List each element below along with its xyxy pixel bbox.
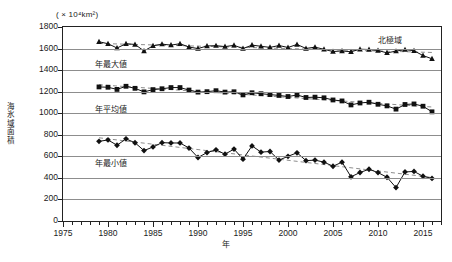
x-tick-minor bbox=[99, 222, 100, 225]
data-point bbox=[178, 85, 183, 90]
x-tick-minor bbox=[351, 222, 352, 225]
x-tick-label: 1990 bbox=[178, 228, 218, 238]
y-tick-label: 1600 bbox=[24, 43, 58, 53]
data-point bbox=[349, 103, 354, 108]
data-point bbox=[123, 41, 129, 46]
y-tick-label: 600 bbox=[24, 150, 58, 160]
x-tick-label: 1975 bbox=[43, 228, 83, 238]
x-tick-minor bbox=[180, 222, 181, 225]
data-point bbox=[403, 102, 408, 107]
data-point bbox=[249, 42, 255, 47]
y-axis-title-char: 積 bbox=[3, 137, 17, 146]
x-tick-minor bbox=[207, 222, 208, 225]
data-point bbox=[124, 84, 129, 89]
y-tick-label: 1400 bbox=[24, 64, 58, 74]
y-tick-label: 1000 bbox=[24, 107, 58, 117]
data-point bbox=[304, 95, 309, 100]
trend-line bbox=[99, 85, 432, 107]
x-tick-major bbox=[423, 222, 424, 227]
x-tick-minor bbox=[189, 222, 190, 225]
data-point bbox=[420, 53, 426, 58]
data-point bbox=[105, 137, 111, 143]
x-tick-minor bbox=[414, 222, 415, 225]
data-point bbox=[286, 94, 291, 99]
series-3 bbox=[96, 136, 435, 191]
y-tick-mark bbox=[58, 70, 62, 71]
y-tick-mark bbox=[58, 92, 62, 93]
data-point bbox=[411, 169, 417, 175]
x-tick-minor bbox=[81, 222, 82, 225]
x-tick-minor bbox=[315, 222, 316, 225]
y-gridline bbox=[63, 178, 441, 179]
x-tick-minor bbox=[369, 222, 370, 225]
data-point bbox=[96, 138, 102, 144]
x-tick-label: 2005 bbox=[313, 228, 353, 238]
data-point bbox=[177, 41, 183, 46]
plot-area bbox=[62, 26, 442, 222]
data-point bbox=[385, 103, 390, 108]
data-point bbox=[96, 39, 102, 44]
data-point bbox=[241, 93, 246, 98]
data-point bbox=[402, 169, 408, 175]
data-point bbox=[322, 95, 327, 100]
x-tick-minor bbox=[171, 222, 172, 225]
y-tick-label: 0 bbox=[24, 215, 58, 225]
y-tick-label: 400 bbox=[24, 172, 58, 182]
data-point bbox=[231, 42, 237, 47]
data-point bbox=[150, 144, 156, 150]
y-tick-mark bbox=[58, 135, 62, 136]
x-tick-major bbox=[333, 222, 334, 227]
data-point bbox=[358, 101, 363, 106]
x-tick-minor bbox=[144, 222, 145, 225]
x-tick-major bbox=[63, 222, 64, 227]
region-label: 北極域 bbox=[378, 34, 402, 45]
x-tick-major bbox=[243, 222, 244, 227]
series-label-2: 年平均値 bbox=[95, 103, 127, 114]
data-point bbox=[106, 85, 111, 90]
x-tick-minor bbox=[360, 222, 361, 225]
data-point bbox=[339, 159, 345, 165]
x-tick-minor bbox=[324, 222, 325, 225]
x-tick-minor bbox=[216, 222, 217, 225]
data-point bbox=[357, 170, 363, 176]
data-point bbox=[313, 95, 318, 100]
y-gridline bbox=[63, 199, 441, 200]
x-tick-minor bbox=[405, 222, 406, 225]
plot-svg bbox=[63, 27, 441, 221]
x-tick-minor bbox=[387, 222, 388, 225]
data-point bbox=[331, 98, 336, 103]
y-tick-mark bbox=[58, 221, 62, 222]
x-tick-minor bbox=[342, 222, 343, 225]
data-point bbox=[375, 170, 381, 176]
data-point bbox=[249, 143, 255, 149]
x-tick-label: 2010 bbox=[358, 228, 398, 238]
x-tick-minor bbox=[432, 222, 433, 225]
data-point bbox=[177, 140, 183, 146]
x-tick-label: 1985 bbox=[133, 228, 173, 238]
x-tick-minor bbox=[225, 222, 226, 225]
data-point bbox=[97, 85, 102, 90]
data-point bbox=[160, 86, 165, 91]
series-line bbox=[99, 86, 432, 112]
data-point bbox=[159, 41, 165, 46]
data-point bbox=[169, 85, 174, 90]
data-point bbox=[340, 99, 345, 104]
y-gridline bbox=[63, 70, 441, 71]
x-tick-minor bbox=[441, 222, 442, 225]
series-line bbox=[99, 139, 432, 188]
data-point bbox=[376, 102, 381, 107]
data-point bbox=[330, 163, 336, 169]
data-point bbox=[394, 107, 399, 112]
x-tick-minor bbox=[279, 222, 280, 225]
x-tick-minor bbox=[306, 222, 307, 225]
y-axis-unit-label: ( × 10⁴km²) bbox=[56, 10, 98, 19]
x-tick-minor bbox=[117, 222, 118, 225]
x-tick-minor bbox=[72, 222, 73, 225]
y-tick-label: 800 bbox=[24, 129, 58, 139]
x-tick-minor bbox=[261, 222, 262, 225]
y-tick-mark bbox=[58, 156, 62, 157]
x-tick-minor bbox=[162, 222, 163, 225]
data-point bbox=[159, 140, 165, 146]
x-tick-major bbox=[198, 222, 199, 227]
series-2 bbox=[97, 84, 435, 114]
